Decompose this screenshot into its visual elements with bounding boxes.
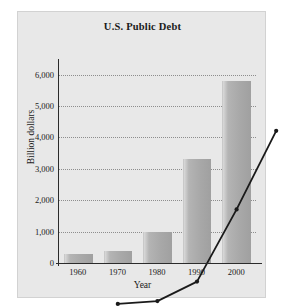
chart-panel: U.S. Public Debt 1,0002,0003,0004,0005,0… xyxy=(17,11,266,298)
data-point-marker xyxy=(274,129,278,133)
x-axis-tick-label: 2000 xyxy=(228,267,245,277)
chart-figure: U.S. Public Debt 1,0002,0003,0004,0005,0… xyxy=(0,0,283,308)
x-axis-tick-label: 1990 xyxy=(188,267,205,277)
page-title: U.S. Public Debt xyxy=(18,21,267,32)
trend-line xyxy=(118,131,276,304)
x-axis-title: Year xyxy=(18,280,267,290)
plot-area xyxy=(58,62,256,263)
y-axis-tick-label: 3,000 xyxy=(18,164,54,174)
y-axis-zero-label: 0 xyxy=(36,258,54,268)
data-point-marker xyxy=(235,207,239,211)
y-axis-tick-label: 2,000 xyxy=(18,195,54,205)
gridline xyxy=(58,75,256,76)
bar xyxy=(64,254,93,263)
x-axis-tick-label: 1980 xyxy=(149,267,166,277)
y-axis-tick-label: 6,000 xyxy=(18,70,54,80)
x-axis-tick-label: 1960 xyxy=(69,267,86,277)
data-point-marker xyxy=(155,299,159,303)
y-axis-line xyxy=(58,59,59,266)
data-point-marker xyxy=(116,302,120,306)
y-axis-tick-label: 5,000 xyxy=(18,101,54,111)
x-axis-tick-label: 1970 xyxy=(109,267,126,277)
y-axis-tick-label: 4,000 xyxy=(18,132,54,142)
x-axis-line xyxy=(56,263,262,264)
y-axis-title: Billion dollars xyxy=(26,77,36,197)
trend-line-overlay xyxy=(98,112,283,308)
y-axis-tick-label: 1,000 xyxy=(18,227,54,237)
